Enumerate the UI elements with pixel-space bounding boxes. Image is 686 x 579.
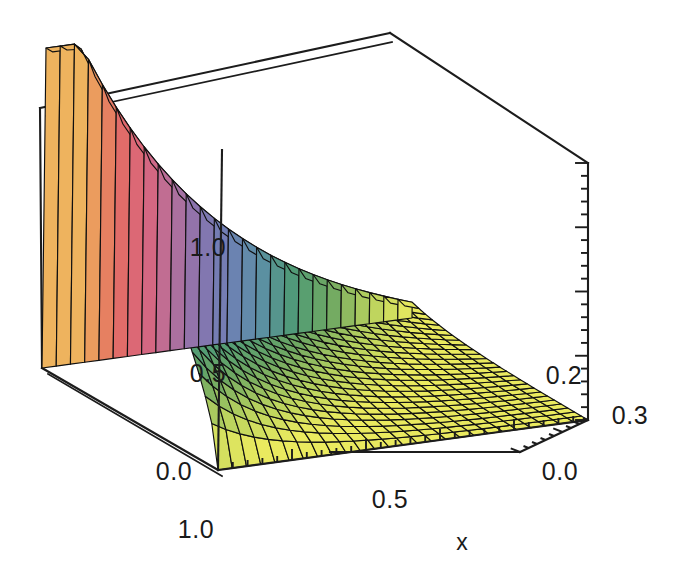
x-tick-label-1-0: 1.0: [178, 515, 214, 543]
y-tick-label-0-3: 0.3: [612, 401, 648, 429]
surface-cell: [170, 180, 186, 351]
frame-edge-top-back-right: [390, 33, 588, 163]
surface-cell: [199, 207, 215, 347]
surface-cell: [227, 229, 243, 343]
y-tick: [524, 446, 529, 448]
y-tick-label-0-0: 0.0: [542, 457, 578, 485]
surface-cell: [184, 194, 200, 349]
y-tick-label-0-2: 0.2: [546, 361, 582, 389]
y-tick: [566, 426, 571, 428]
x-axis-name-label: x: [456, 529, 468, 555]
surface-cell: [156, 164, 172, 352]
frame-edge-back-left-vertical: [40, 108, 42, 368]
plot-canvas: 1.0 0.5 0.0 0.2 0.3 0.0 0.5 1.0 x: [0, 0, 686, 579]
surface-plot-figure: 1.0 0.5 0.0 0.2 0.3 0.0 0.5 1.0 x: [0, 0, 686, 579]
z-tick-label-0-5: 0.5: [190, 359, 226, 387]
z-tick-label-1-0: 1.0: [190, 233, 226, 261]
y-tick: [532, 442, 537, 444]
x-tick-label-0-5: 0.5: [372, 485, 408, 513]
frame-rail-bottom-left: [48, 374, 222, 476]
y-tick: [541, 438, 546, 440]
z-tick-label-0-0: 0.0: [156, 457, 192, 485]
y-tick: [553, 428, 562, 432]
y-tick: [549, 434, 554, 436]
